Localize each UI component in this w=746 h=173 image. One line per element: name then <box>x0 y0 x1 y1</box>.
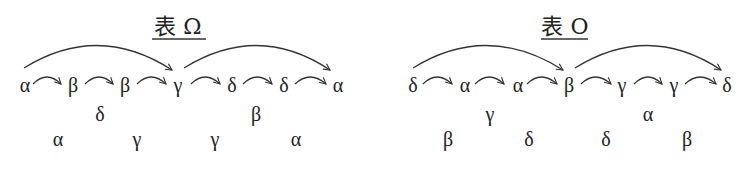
symbol: β <box>68 74 78 97</box>
long-arrow-1 <box>24 45 172 70</box>
step-arrow <box>423 77 452 84</box>
step-arrow <box>33 77 61 84</box>
step-arrow <box>527 77 557 84</box>
long-arrow-2 <box>575 45 721 70</box>
symbol: γ <box>617 74 627 97</box>
symbol: γ <box>669 74 679 97</box>
symbol: α <box>53 128 64 150</box>
step-arrow <box>85 77 113 84</box>
panel-title: 表 Ω <box>154 14 201 39</box>
step-arrow <box>137 77 166 84</box>
symbol: γ <box>173 74 183 97</box>
step-arrow <box>475 77 504 84</box>
step-arrow <box>243 77 272 84</box>
long-arrow-1 <box>413 45 563 70</box>
symbol: α <box>20 74 31 96</box>
symbol: β <box>682 128 692 151</box>
symbol: δ <box>227 74 236 96</box>
symbol: γ <box>132 128 142 151</box>
symbol: α <box>643 103 654 125</box>
step-arrow <box>295 77 326 84</box>
symbol: β <box>120 74 130 97</box>
symbol: δ <box>95 103 104 125</box>
symbol: α <box>291 128 302 150</box>
table-diagram: 表 Ω α β β γ δ δ α δ β α γ γ α 表 O <box>0 0 746 173</box>
panel-o: 表 O δ α α β γ γ δ γ α β δ δ β <box>408 14 731 151</box>
long-arrow-2 <box>184 45 330 70</box>
step-arrow <box>581 77 611 84</box>
symbol: α <box>460 74 471 96</box>
symbol: α <box>513 74 524 96</box>
symbol: β <box>564 74 574 97</box>
panel-title: 表 O <box>541 14 588 39</box>
symbol: δ <box>722 74 731 96</box>
symbol: δ <box>408 74 417 96</box>
symbol: β <box>251 103 261 126</box>
step-arrow <box>685 77 716 84</box>
symbol: β <box>443 128 453 151</box>
symbol: δ <box>279 74 288 96</box>
step-arrow <box>191 77 220 84</box>
step-arrow <box>634 77 662 84</box>
symbol: γ <box>485 103 495 126</box>
symbol: α <box>333 74 344 96</box>
panel-omega: 表 Ω α β β γ δ δ α δ β α γ γ α <box>20 14 344 151</box>
symbol: γ <box>210 128 220 151</box>
symbol: δ <box>524 128 533 150</box>
symbol: δ <box>601 128 610 150</box>
